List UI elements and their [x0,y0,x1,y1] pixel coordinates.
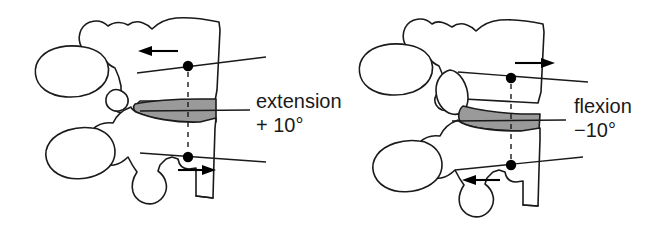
disc-reference-line-flexion [452,120,566,121]
lower-center-dot-flexion [506,160,516,170]
lower-center-dot-extension [183,152,193,162]
disc-reference-line-extension [140,110,250,111]
flexion-label: flexion [574,95,632,117]
upper-transverse-process-extension [35,46,108,97]
spine-motion-figure: extension + 10° [0,0,666,239]
lower-transverse-process-flexion [373,141,442,192]
lower-transverse-process-extension [46,128,115,179]
upper-articular-facet-extension [106,90,128,112]
extension-angle-label: + 10° [256,114,303,136]
flexion-angle-label: −10° [574,119,616,141]
extension-label: extension [256,90,342,112]
upper-center-dot-extension [183,61,193,71]
upper-center-dot-flexion [506,73,516,83]
upper-transverse-process-flexion [359,44,432,95]
lower-body-bottom-edge-flexion [523,205,538,206]
